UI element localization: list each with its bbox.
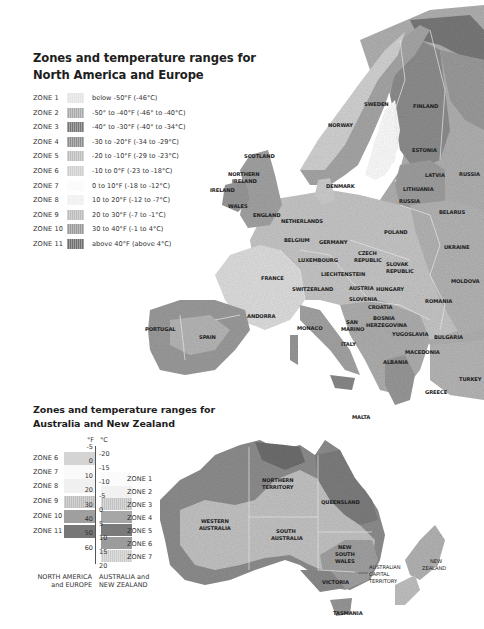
svg-text:ALBANIA: ALBANIA xyxy=(383,359,408,365)
svg-text:NORTHERN: NORTHERN xyxy=(228,171,259,177)
svg-text:TURKEY: TURKEY xyxy=(459,376,482,382)
svg-text:LUXEMBOURG: LUXEMBOURG xyxy=(298,257,338,263)
svg-text:NORTHERN: NORTHERN xyxy=(262,477,293,483)
fahrenheit-tick: 60 xyxy=(76,544,93,552)
svg-text:MARINO: MARINO xyxy=(341,326,365,332)
svg-text:AUSTRALIA: AUSTRALIA xyxy=(271,535,303,541)
zone-temperature-range: below -50°F (-46°C) xyxy=(92,94,157,102)
celsius-tick: -15 xyxy=(99,464,110,472)
celsius-tick: 0 xyxy=(99,506,103,514)
zone-color-swatch xyxy=(67,181,84,191)
svg-text:PORTUGAL: PORTUGAL xyxy=(145,326,176,332)
zone-label: ZONE 4 xyxy=(33,138,67,146)
zone-label: ZONE 10 xyxy=(33,225,67,233)
legend-row-zone-4: ZONE 4-30 to -20°F (-34 to -29°C) xyxy=(33,136,179,148)
footer-line: NEW ZEALAND xyxy=(99,581,149,589)
svg-text:ZEALAND: ZEALAND xyxy=(422,565,446,571)
svg-text:NORWAY: NORWAY xyxy=(328,122,353,128)
svg-text:CAPITAL: CAPITAL xyxy=(369,571,390,577)
zone-color-swatch xyxy=(67,151,84,161)
svg-text:WALES: WALES xyxy=(228,203,248,209)
fahrenheit-tick: 50 xyxy=(76,529,93,537)
svg-text:CROATIA: CROATIA xyxy=(368,304,393,310)
svg-text:HERZEGOVINA: HERZEGOVINA xyxy=(366,322,407,328)
zone-temperature-range: -20 to -10°F (-29 to -23°C) xyxy=(92,152,179,160)
svg-text:FRANCE: FRANCE xyxy=(261,275,284,281)
au-zone-label: ZONE 6 xyxy=(127,540,152,548)
svg-text:MONACO: MONACO xyxy=(297,325,323,331)
zone-label: ZONE 2 xyxy=(33,109,67,117)
celsius-tick: -20 xyxy=(99,450,110,458)
svg-text:LITHUANIA: LITHUANIA xyxy=(403,186,434,192)
au-zone-label: ZONE 3 xyxy=(127,501,152,509)
title-line-1: Zones and temperature ranges for xyxy=(33,403,215,417)
svg-text:WALES: WALES xyxy=(335,558,355,564)
zone-temperature-range: -10 to 0°F (-23 to -18°C) xyxy=(92,167,172,175)
legend-row-zone-7: ZONE 70 to 10°F (-18 to -12°C) xyxy=(33,180,170,192)
svg-text:ESTONIA: ESTONIA xyxy=(412,147,437,153)
svg-text:CZECH: CZECH xyxy=(358,250,377,256)
zone-temperature-range: 30 to 40°F (-1 to 4°C) xyxy=(92,225,163,233)
celsius-tick: 5 xyxy=(99,520,103,528)
fahrenheit-tick: 20 xyxy=(76,486,93,494)
zone-label: ZONE 11 xyxy=(33,240,67,248)
svg-text:SOUTH: SOUTH xyxy=(335,551,355,557)
title-line-2: North America and Europe xyxy=(33,67,256,84)
svg-text:AUSTRALIAN: AUSTRALIAN xyxy=(369,564,401,570)
footer-north-america-europe: NORTH AMERICA and EUROPE xyxy=(36,573,92,589)
svg-text:SOUTH: SOUTH xyxy=(276,528,296,534)
na-zone-label: ZONE 11 xyxy=(33,527,62,535)
legend-row-zone-6: ZONE 6-10 to 0°F (-23 to -18°C) xyxy=(33,165,172,177)
svg-text:QUEENSLAND: QUEENSLAND xyxy=(321,499,361,505)
svg-text:SWITZERLAND: SWITZERLAND xyxy=(292,286,334,292)
svg-text:BELGIUM: BELGIUM xyxy=(284,237,310,243)
zone-temperature-range: above 40°F (above 4°C) xyxy=(92,240,171,248)
zone-color-swatch xyxy=(67,93,84,103)
fahrenheit-tick: -5 xyxy=(76,443,93,451)
svg-text:FINLAND: FINLAND xyxy=(413,103,439,109)
legend-row-zone-10: ZONE 1030 to 40°F (-1 to 4°C) xyxy=(33,223,163,235)
svg-text:SAN: SAN xyxy=(346,319,358,325)
svg-text:NEW: NEW xyxy=(338,544,352,550)
legend-row-zone-9: ZONE 920 to 30°F (-7 to -1°C) xyxy=(33,209,166,221)
zone-color-swatch xyxy=(67,108,84,118)
legend-row-zone-3: ZONE 3-40° to -30°F (-40° to -34°C) xyxy=(33,121,186,133)
zone-color-swatch xyxy=(67,195,84,205)
svg-text:IRELAND: IRELAND xyxy=(232,178,258,184)
fahrenheit-tick: 10 xyxy=(76,472,93,480)
svg-text:AUSTRIA: AUSTRIA xyxy=(349,285,374,291)
svg-text:MOLDOVA: MOLDOVA xyxy=(451,278,480,284)
zone-label: ZONE 6 xyxy=(33,167,67,175)
fahrenheit-tick: 40 xyxy=(76,515,93,523)
svg-text:GREECE: GREECE xyxy=(425,389,448,395)
celsius-tick: 10 xyxy=(99,534,107,542)
zone-color-swatch xyxy=(67,137,84,147)
svg-text:NETHERLANDS: NETHERLANDS xyxy=(281,218,323,224)
svg-text:AUSTRALIA: AUSTRALIA xyxy=(199,525,231,531)
legend-row-zone-5: ZONE 5-20 to -10°F (-29 to -23°C) xyxy=(33,150,179,162)
zone-label: ZONE 3 xyxy=(33,123,67,131)
fahrenheit-tick: 30 xyxy=(76,501,93,509)
zone-label: ZONE 9 xyxy=(33,211,67,219)
zone-temperature-range: 10 to 20°F (-12 to -7°C) xyxy=(92,196,170,204)
au-zone-label: ZONE 5 xyxy=(127,527,152,535)
svg-text:HUNGARY: HUNGARY xyxy=(376,286,404,292)
scale-axis-line xyxy=(95,446,96,564)
svg-text:SCOTLAND: SCOTLAND xyxy=(244,153,275,159)
zone-color-swatch xyxy=(67,239,84,249)
svg-text:SLOVAK: SLOVAK xyxy=(386,261,409,267)
zone-label: ZONE 7 xyxy=(33,182,67,190)
svg-text:SWEDEN: SWEDEN xyxy=(364,101,389,107)
legend-row-zone-11: ZONE 11above 40°F (above 4°C) xyxy=(33,238,171,250)
svg-text:VICTORIA: VICTORIA xyxy=(322,579,349,585)
au-zone-label: ZONE 7 xyxy=(127,553,152,561)
svg-text:BULGARIA: BULGARIA xyxy=(434,334,463,340)
svg-text:RUSSIA: RUSSIA xyxy=(459,171,480,177)
zone-temperature-range: 20 to 30°F (-7 to -1°C) xyxy=(92,211,166,219)
svg-text:MALTA: MALTA xyxy=(352,414,370,420)
svg-text:POLAND: POLAND xyxy=(384,229,408,235)
svg-text:ITALY: ITALY xyxy=(341,341,356,347)
svg-text:ENGLAND: ENGLAND xyxy=(253,212,281,218)
zone-temperature-range: 0 to 10°F (-18 to -12°C) xyxy=(92,182,170,190)
svg-text:YUGOSLAVIA: YUGOSLAVIA xyxy=(391,331,428,337)
